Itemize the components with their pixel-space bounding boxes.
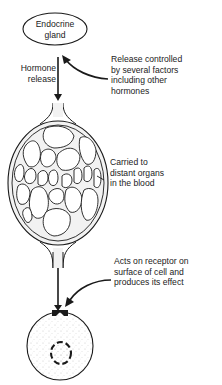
blood-label-line: in the blood xyxy=(110,178,200,189)
control-label-line: including other xyxy=(111,75,221,86)
gland-label: Endocrine gland xyxy=(24,19,86,40)
gland-label-line: gland xyxy=(24,30,86,41)
blood-label-line: Carried to xyxy=(110,157,200,168)
gland-label-line: Endocrine xyxy=(24,19,86,30)
action-arrow xyxy=(65,280,111,307)
blood-label-line: distant organs xyxy=(110,168,200,179)
control-label-line: by several factors xyxy=(111,65,221,76)
release-label-line: Hormone xyxy=(2,63,56,74)
receptor-label-line: surface of cell and xyxy=(114,267,222,278)
capillary-network xyxy=(8,103,108,268)
control-arrow xyxy=(62,55,108,79)
receptor-label-line: Acts on receptor on xyxy=(114,256,222,267)
release-label-line: release xyxy=(2,74,56,85)
blood-label: Carried to distant organs in the blood xyxy=(110,157,200,189)
hormone-release-label: Hormone release xyxy=(2,63,56,84)
control-label: Release controlled by several factors in… xyxy=(111,54,221,96)
control-label-line: hormones xyxy=(111,86,221,97)
nucleus xyxy=(51,342,71,364)
receptor-label-line: produces its effect xyxy=(114,277,222,288)
control-label-line: Release controlled xyxy=(111,54,221,65)
target-cell xyxy=(27,310,93,380)
receptor-label: Acts on receptor on surface of cell and … xyxy=(114,256,222,288)
receptor-arrow xyxy=(54,268,62,311)
